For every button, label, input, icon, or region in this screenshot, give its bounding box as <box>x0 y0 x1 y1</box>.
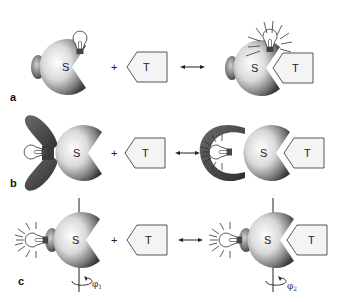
sensor-label: S <box>62 61 69 73</box>
target-label: T <box>145 234 152 246</box>
sensor-label: S <box>72 234 79 246</box>
plus-sign: + <box>111 147 117 159</box>
equilibrium-arrow-icon <box>175 151 200 155</box>
panel-b: S + T S T b <box>10 115 324 190</box>
sensor-label: S <box>251 62 258 74</box>
target-label: T <box>142 147 149 159</box>
panel-label: a <box>10 91 17 103</box>
plus-sign: + <box>111 61 117 73</box>
angle-subscript: 1 <box>98 283 102 290</box>
sensor-label: S <box>264 234 271 246</box>
target-label: T <box>292 62 299 74</box>
bulb-on-icon <box>209 222 242 258</box>
angle-label: φ2 <box>287 281 297 292</box>
panel-label: b <box>10 177 17 189</box>
target-label: T <box>304 147 311 159</box>
angle-subscript: 2 <box>293 285 297 292</box>
bulb-on-icon <box>15 222 48 258</box>
rotation-arrowhead <box>84 276 88 281</box>
sensor-label: S <box>260 147 267 159</box>
sensor-label: S <box>73 147 80 159</box>
panel-c: S φ1 + T S T φ2 c <box>15 198 327 292</box>
panel-a: S + T S T a <box>10 21 313 103</box>
target-label: T <box>308 234 315 246</box>
rotation-arrow-icon <box>72 278 92 285</box>
rotation-arrow-icon <box>266 278 286 285</box>
equilibrium-arrow-icon <box>178 238 203 242</box>
target-shape <box>287 225 327 255</box>
angle-label: φ1 <box>92 279 102 290</box>
plus-sign: + <box>111 234 117 246</box>
rotation-arrowhead <box>278 276 282 281</box>
target-label: T <box>143 61 150 73</box>
equilibrium-arrow-icon <box>180 65 205 69</box>
sensor-diagram: S + T S T a <box>0 0 345 302</box>
panel-label: c <box>18 275 24 287</box>
